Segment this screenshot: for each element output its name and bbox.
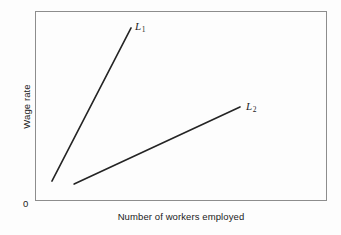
plot-area-frame [35,11,327,201]
curve-label-l1-subscript: 1 [142,25,146,34]
y-axis-title: Wage rate [21,57,32,157]
curve-label-l2-text: L [246,100,252,112]
chart-screenshot: L1 L2 Wage rate Number of workers employ… [0,0,341,235]
curve-label-l1-text: L [135,20,141,32]
curve-label-l2: L2 [246,101,256,112]
curve-label-l1: L1 [135,21,145,32]
curve-label-l2-subscript: 2 [253,105,257,114]
origin-label: 0 [23,199,28,209]
x-axis-title: Number of workers employed [35,211,327,222]
